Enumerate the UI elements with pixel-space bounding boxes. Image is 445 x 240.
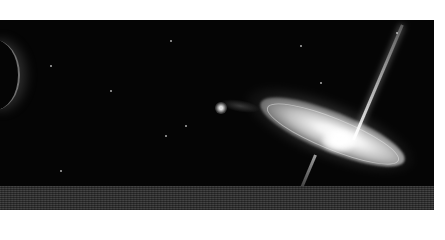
star xyxy=(60,170,62,172)
companion-galaxy xyxy=(215,102,227,114)
galaxy-core xyxy=(322,130,356,152)
star xyxy=(110,90,112,92)
star xyxy=(300,45,302,47)
planet-limb-glow xyxy=(0,40,20,110)
star xyxy=(320,82,322,84)
star xyxy=(50,65,52,67)
star xyxy=(165,135,167,137)
star xyxy=(170,40,172,42)
planet-horizon xyxy=(0,186,434,210)
star xyxy=(185,125,187,127)
galaxy-photo xyxy=(0,20,434,210)
